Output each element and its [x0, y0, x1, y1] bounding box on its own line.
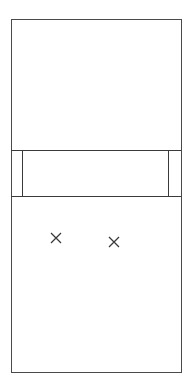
x-mark-icon — [108, 236, 120, 248]
band-right-divider — [168, 150, 169, 196]
x-mark-icon — [50, 232, 62, 244]
horizontal-band — [11, 150, 181, 197]
band-left-divider — [22, 150, 23, 196]
